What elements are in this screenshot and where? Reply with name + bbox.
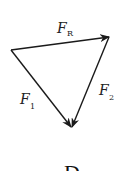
label-f1: F 1 bbox=[19, 91, 35, 111]
vector-diagram: F R F 1 F 2 D bbox=[0, 0, 121, 171]
svg-text:2: 2 bbox=[109, 93, 114, 102]
label-f2: F 2 bbox=[98, 82, 114, 102]
vector-fr-arrow bbox=[11, 37, 109, 50]
svg-text:1: 1 bbox=[30, 102, 35, 111]
svg-text:R: R bbox=[67, 29, 74, 38]
option-label: D bbox=[64, 160, 80, 171]
vector-f1-arrow bbox=[11, 50, 71, 127]
label-fr: F R bbox=[56, 20, 74, 38]
